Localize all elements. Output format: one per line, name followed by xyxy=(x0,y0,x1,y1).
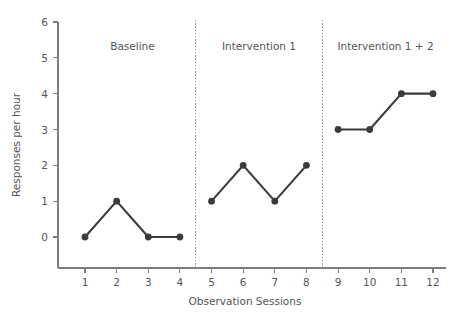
data-point-marker xyxy=(303,162,310,169)
y-axis-tick-label: 4 xyxy=(41,88,48,100)
x-axis-tick-label: 11 xyxy=(395,276,408,288)
single-subject-line-chart: BaselineIntervention 1Intervention 1 + 2… xyxy=(0,0,464,323)
y-axis-tick-label: 3 xyxy=(41,124,48,136)
data-point-marker xyxy=(240,162,247,169)
phase-label: Baseline xyxy=(110,40,155,52)
x-axis-tick-label: 4 xyxy=(177,276,184,288)
y-axis-tick-group: 0123456 xyxy=(41,16,58,243)
data-point-marker xyxy=(271,198,278,205)
phase-label: Intervention 1 xyxy=(222,40,296,52)
x-axis-tick-group: 123456789101112 xyxy=(82,268,440,288)
data-point-marker xyxy=(82,234,89,241)
x-axis-title: Observation Sessions xyxy=(189,295,302,307)
chart-plot-area: BaselineIntervention 1Intervention 1 + 2… xyxy=(0,0,464,323)
x-axis-tick-label: 3 xyxy=(145,276,152,288)
data-point-marker xyxy=(208,198,215,205)
x-axis-tick-label: 5 xyxy=(208,276,215,288)
y-axis-title: Responses per hour xyxy=(10,92,22,197)
data-point-marker xyxy=(145,234,152,241)
series-line-baseline xyxy=(85,201,180,237)
data-point-marker xyxy=(398,90,405,97)
data-point-marker xyxy=(430,90,437,97)
data-series-group xyxy=(82,90,437,240)
x-axis-tick-label: 9 xyxy=(335,276,342,288)
x-axis-tick-label: 10 xyxy=(363,276,376,288)
series-line-intervention-1 xyxy=(212,165,307,201)
phase-label: Intervention 1 + 2 xyxy=(337,40,433,52)
data-point-marker xyxy=(335,126,342,133)
series-line-intervention-1-2 xyxy=(338,94,433,130)
x-axis-tick-label: 6 xyxy=(240,276,247,288)
x-axis-tick-label: 8 xyxy=(303,276,310,288)
x-axis-tick-label: 7 xyxy=(271,276,278,288)
x-axis-tick-label: 1 xyxy=(82,276,89,288)
x-axis-tick-label: 12 xyxy=(426,276,439,288)
y-axis-tick-label: 0 xyxy=(41,231,48,243)
y-axis-tick-label: 6 xyxy=(41,16,48,28)
x-axis-tick-label: 2 xyxy=(113,276,120,288)
y-axis-tick-label: 5 xyxy=(41,52,48,64)
phase-label-group: BaselineIntervention 1Intervention 1 + 2 xyxy=(110,40,433,52)
phase-divider-group xyxy=(196,20,323,268)
data-point-marker xyxy=(113,198,120,205)
data-point-marker xyxy=(366,126,373,133)
axes-group xyxy=(58,22,446,268)
data-point-marker xyxy=(177,234,184,241)
y-axis-tick-label: 2 xyxy=(41,159,48,171)
y-axis-tick-label: 1 xyxy=(41,195,48,207)
